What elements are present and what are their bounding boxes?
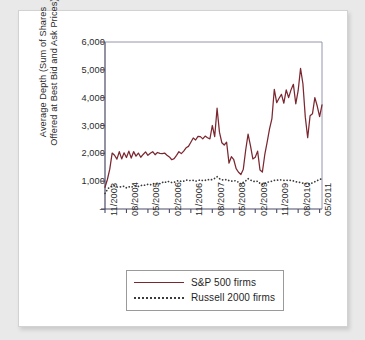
legend-swatch-dotted-line [134,293,184,303]
chart-legend: S&P 500 firms Russell 2000 firms [126,270,284,311]
legend-label-russell2000: Russell 2000 firms [191,292,275,303]
x-tick-label: 11/2006 [194,183,204,216]
x-tick-label: 02/2006 [173,182,183,216]
x-tick-label: 08/2010 [302,182,312,216]
chart-figure: Average Depth (Sum of Shares Offered at … [19,11,349,328]
legend-label-sp500: S&P 500 firms [191,277,256,288]
legend-item-sp500: S&P 500 firms [134,275,276,290]
screenshot-root: Average Depth (Sum of Shares Offered at … [0,0,365,340]
series-line-sp500 [105,68,322,187]
figure-card: Average Depth (Sum of Shares Offered at … [18,10,348,327]
x-tick-label: 02/2009 [259,182,269,216]
x-tick-label: 05/2008 [237,182,247,216]
x-tick-label: 11/2009 [280,183,290,216]
x-tick-label: 05/2005 [151,182,161,216]
x-tick-label: 08/2004 [130,182,140,216]
data-series-layer [105,68,322,193]
x-tick-label: 11/2003 [109,183,119,216]
x-tick-label: 05/2011 [323,183,333,216]
x-tick-label: 08/2007 [216,182,226,216]
legend-item-russell2000: Russell 2000 firms [134,290,276,305]
legend-swatch-solid-line [134,278,184,288]
